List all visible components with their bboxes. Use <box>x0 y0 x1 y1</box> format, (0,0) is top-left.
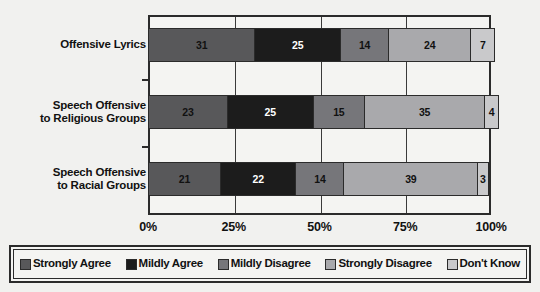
legend-item[interactable]: Mildly Agree <box>126 258 203 270</box>
bar-value-label: 35 <box>419 107 430 118</box>
stacked-bar-chart: Offensive LyricsSpeech Offensiveto Relig… <box>0 0 540 292</box>
bar-row: 232515354 <box>148 95 499 129</box>
bar-value-label: 21 <box>179 174 190 185</box>
legend-label: Don't Know <box>460 258 520 270</box>
bar-value-label: 22 <box>253 174 264 185</box>
bar-segment: 25 <box>254 28 341 62</box>
x-axis-tick-label: 25% <box>222 220 246 234</box>
legend-swatch-icon <box>20 259 31 270</box>
legend-swatch-icon <box>126 259 137 270</box>
y-axis-category-label: Speech Offensiveto Religious Groups <box>6 99 146 126</box>
x-axis-tick-label: 75% <box>393 220 417 234</box>
x-axis-tick-label: 0% <box>139 220 157 234</box>
category-label-line: Speech Offensive <box>6 166 146 180</box>
bar-segment: 22 <box>220 162 296 196</box>
legend-item[interactable]: Mildly Disagree <box>218 258 311 270</box>
bar-row: 312514247 <box>148 28 495 62</box>
bar-row: 212214393 <box>148 162 489 196</box>
legend-items: Strongly AgreeMildly AgreeMildly Disagre… <box>13 249 527 279</box>
bar-value-label: 4 <box>489 107 495 118</box>
bar-segment: 39 <box>343 162 478 196</box>
legend-item[interactable]: Don't Know <box>447 258 520 270</box>
legend-swatch-icon <box>325 259 336 270</box>
x-axis-tick-label: 50% <box>307 220 331 234</box>
bar-segment: 24 <box>388 28 471 62</box>
legend-label: Mildly Agree <box>139 258 203 270</box>
bar-value-label: 23 <box>182 107 193 118</box>
bar-segment: 35 <box>364 95 485 129</box>
bar-value-label: 24 <box>424 40 435 51</box>
category-label-line: Speech Offensive <box>6 99 146 113</box>
bar-segment: 7 <box>470 28 495 62</box>
y-axis-category-label: Speech Offensiveto Racial Groups <box>6 166 146 193</box>
y-axis-category-label: Offensive Lyrics <box>6 38 146 52</box>
bar-value-label: 39 <box>405 174 416 185</box>
legend-item[interactable]: Strongly Disagree <box>325 258 431 270</box>
legend-label: Mildly Disagree <box>231 258 311 270</box>
bar-segment: 3 <box>477 162 488 196</box>
bar-segment: 4 <box>484 95 499 129</box>
category-label-line: to Religious Groups <box>6 112 146 126</box>
category-label-line: to Racial Groups <box>6 179 146 193</box>
bar-segment: 23 <box>148 95 228 129</box>
bar-segment: 14 <box>340 28 389 62</box>
bar-value-label: 25 <box>265 107 276 118</box>
bar-segment: 25 <box>227 95 314 129</box>
legend-swatch-icon <box>218 259 229 270</box>
bar-segment: 31 <box>148 28 255 62</box>
bar-value-label: 31 <box>196 40 207 51</box>
bar-segment: 14 <box>295 162 344 196</box>
bar-value-label: 15 <box>333 107 344 118</box>
bar-value-label: 14 <box>314 174 325 185</box>
legend-swatch-icon <box>447 259 458 270</box>
bar-value-label: 14 <box>359 40 370 51</box>
legend: Strongly AgreeMildly AgreeMildly Disagre… <box>9 245 531 283</box>
bar-segment: 21 <box>148 162 221 196</box>
bar-value-label: 25 <box>292 40 303 51</box>
bar-value-label: 7 <box>480 40 486 51</box>
category-label-line: Offensive Lyrics <box>6 38 146 52</box>
bar-value-label: 3 <box>480 174 486 185</box>
legend-label: Strongly Agree <box>33 258 111 270</box>
legend-label: Strongly Disagree <box>338 258 431 270</box>
bar-segment: 15 <box>313 95 365 129</box>
legend-item[interactable]: Strongly Agree <box>20 258 111 270</box>
x-axis-tick-label: 100% <box>475 220 506 234</box>
